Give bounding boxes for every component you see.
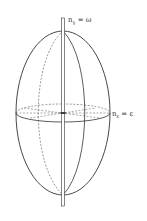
center-point xyxy=(60,112,66,114)
top-axis-label: nγ = ω xyxy=(68,16,92,26)
equator-label: nε = ε xyxy=(112,110,133,119)
index-ellipsoid-diagram: nγ = ω nε = ε xyxy=(0,0,147,221)
